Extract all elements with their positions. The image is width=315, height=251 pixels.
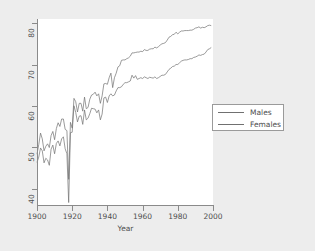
x-tick-mark [72,206,73,211]
x-tick-mark [107,206,108,211]
y-tick-label: 80 [28,23,36,43]
x-axis-title: Year [37,224,214,233]
x-axis-line [37,205,214,206]
series-line-males [37,48,211,203]
x-tick-label: 1960 [128,212,158,221]
y-tick-label: 60 [28,106,36,126]
y-tick-label: 40 [28,189,36,209]
legend-line-icon-males [218,112,244,113]
y-tick-label: 50 [28,147,36,167]
x-tick-mark [37,206,38,211]
chart-figure: 4050607080 190019201940196019802000 Year… [0,0,315,251]
x-tick-label: 1900 [22,212,52,221]
legend-line-icon-females [218,124,244,125]
series-lines [37,19,213,205]
legend-label-females: Females [250,120,281,129]
x-tick-label: 1940 [92,212,122,221]
chart-legend: Males Females [212,104,284,131]
y-tick-label: 70 [28,65,36,85]
plot-area [37,19,213,205]
x-tick-label: 1920 [57,212,87,221]
x-tick-mark [143,206,144,211]
x-tick-mark [178,206,179,211]
x-tick-mark [213,206,214,211]
legend-label-males: Males [250,108,272,117]
series-line-females [37,25,211,179]
y-axis-line [37,19,38,206]
x-tick-label: 2000 [198,212,228,221]
legend-item-females[interactable]: Females [213,118,283,131]
x-tick-label: 1980 [163,212,193,221]
